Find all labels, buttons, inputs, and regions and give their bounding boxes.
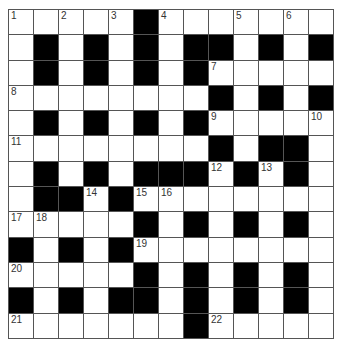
grid-cell[interactable]: 21 [9,314,34,339]
grid-cell[interactable]: 11 [9,136,34,161]
grid-cell[interactable] [209,263,234,288]
grid-cell[interactable] [109,162,134,187]
grid-cell[interactable] [234,238,259,263]
grid-cell[interactable] [284,238,309,263]
grid-cell[interactable] [84,288,109,313]
grid-cell[interactable] [159,288,184,313]
grid-cell[interactable] [284,35,309,60]
grid-cell[interactable] [259,61,284,86]
grid-cell[interactable]: 20 [9,263,34,288]
grid-cell[interactable] [184,187,209,212]
grid-cell[interactable] [234,35,259,60]
grid-cell[interactable] [159,238,184,263]
grid-cell[interactable] [9,187,34,212]
grid-cell[interactable]: 14 [84,187,109,212]
grid-cell[interactable] [59,35,84,60]
grid-cell[interactable] [34,10,59,35]
grid-cell[interactable] [84,238,109,263]
grid-cell[interactable] [9,111,34,136]
grid-cell[interactable] [234,86,259,111]
grid-cell[interactable] [109,212,134,237]
grid-cell[interactable] [259,212,284,237]
grid-cell[interactable] [34,238,59,263]
grid-cell[interactable] [84,212,109,237]
grid-cell[interactable] [309,314,334,339]
grid-cell[interactable] [159,212,184,237]
grid-cell[interactable] [259,10,284,35]
grid-cell[interactable] [84,263,109,288]
grid-cell[interactable]: 16 [159,187,184,212]
grid-cell[interactable] [184,136,209,161]
grid-cell[interactable] [184,238,209,263]
grid-cell[interactable]: 19 [134,238,159,263]
grid-cell[interactable] [184,10,209,35]
grid-cell[interactable] [259,314,284,339]
grid-cell[interactable] [134,314,159,339]
grid-cell[interactable] [59,162,84,187]
grid-cell[interactable] [259,111,284,136]
grid-cell[interactable] [209,212,234,237]
grid-cell[interactable] [59,86,84,111]
grid-cell[interactable] [9,162,34,187]
grid-cell[interactable] [159,35,184,60]
grid-cell[interactable]: 3 [109,10,134,35]
grid-cell[interactable] [9,61,34,86]
grid-cell[interactable] [309,263,334,288]
grid-cell[interactable] [284,86,309,111]
grid-cell[interactable] [34,86,59,111]
grid-cell[interactable]: 18 [34,212,59,237]
grid-cell[interactable] [309,288,334,313]
grid-cell[interactable] [284,314,309,339]
grid-cell[interactable] [159,111,184,136]
grid-cell[interactable] [59,61,84,86]
grid-cell[interactable] [259,187,284,212]
grid-cell[interactable]: 7 [209,61,234,86]
grid-cell[interactable] [59,111,84,136]
grid-cell[interactable] [234,111,259,136]
grid-cell[interactable] [59,263,84,288]
grid-cell[interactable] [159,314,184,339]
grid-cell[interactable] [209,10,234,35]
grid-cell[interactable]: 4 [159,10,184,35]
grid-cell[interactable] [234,61,259,86]
grid-cell[interactable]: 12 [209,162,234,187]
grid-cell[interactable] [84,314,109,339]
grid-cell[interactable] [309,10,334,35]
grid-cell[interactable] [84,136,109,161]
grid-cell[interactable] [284,111,309,136]
grid-cell[interactable]: 15 [134,187,159,212]
grid-cell[interactable] [284,187,309,212]
grid-cell[interactable] [209,288,234,313]
grid-cell[interactable]: 10 [309,111,334,136]
grid-cell[interactable] [234,314,259,339]
grid-cell[interactable] [284,61,309,86]
grid-cell[interactable] [59,212,84,237]
grid-cell[interactable]: 6 [284,10,309,35]
grid-cell[interactable] [209,238,234,263]
grid-cell[interactable] [109,35,134,60]
grid-cell[interactable] [259,288,284,313]
grid-cell[interactable] [34,263,59,288]
grid-cell[interactable]: 1 [9,10,34,35]
grid-cell[interactable] [59,314,84,339]
grid-cell[interactable] [259,238,284,263]
grid-cell[interactable] [309,212,334,237]
grid-cell[interactable] [159,61,184,86]
grid-cell[interactable] [309,61,334,86]
grid-cell[interactable]: 8 [9,86,34,111]
grid-cell[interactable] [84,10,109,35]
grid-cell[interactable] [9,35,34,60]
grid-cell[interactable] [109,136,134,161]
grid-cell[interactable]: 13 [259,162,284,187]
grid-cell[interactable] [159,86,184,111]
grid-cell[interactable] [34,136,59,161]
grid-cell[interactable] [134,136,159,161]
grid-cell[interactable] [309,187,334,212]
grid-cell[interactable] [59,136,84,161]
grid-cell[interactable] [259,263,284,288]
grid-cell[interactable] [34,314,59,339]
grid-cell[interactable] [184,86,209,111]
grid-cell[interactable] [109,314,134,339]
grid-cell[interactable]: 22 [209,314,234,339]
grid-cell[interactable]: 5 [234,10,259,35]
